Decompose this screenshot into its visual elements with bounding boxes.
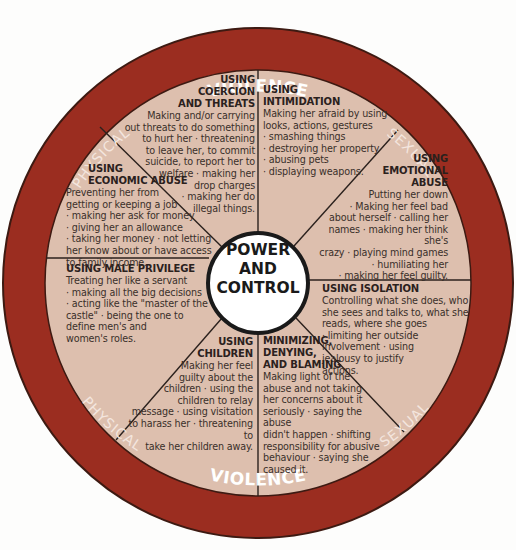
segment-title: USING ECONOMIC ABUSE	[66, 163, 216, 187]
segment-title: MINIMIZING, DENYING, AND BLAMING	[263, 335, 388, 371]
segment-body: Preventing her from getting or keeping a…	[66, 187, 216, 268]
segment-title: USING EMOTIONAL ABUSE	[318, 153, 448, 189]
segment-title: USING ISOLATION	[322, 283, 472, 295]
segment-body: Treating her like a servant · making all…	[66, 275, 216, 345]
segment-emotional-abuse: USING EMOTIONAL ABUSE Putting her down ·…	[318, 153, 448, 282]
segment-economic-abuse: USING ECONOMIC ABUSE Preventing her from…	[66, 163, 216, 268]
center-power-control-label: POWER AND CONTROL	[208, 241, 308, 298]
segment-children: USING CHILDREN Making her feel guilty ab…	[120, 336, 253, 453]
segment-body: Making light of the abuse and not taking…	[263, 371, 388, 475]
segment-body: Making her feel guilty about the childre…	[120, 360, 253, 453]
segment-title: USING INTIMIDATION	[263, 84, 403, 108]
segment-minimizing-denying-blaming: MINIMIZING, DENYING, AND BLAMING Making …	[263, 335, 388, 475]
segment-male-privilege: USING MALE PRIVILEGE Treating her like a…	[66, 263, 216, 345]
segment-body: Putting her down · Making her feel bad a…	[318, 189, 448, 282]
segment-title: USING COERCION AND THREATS	[120, 74, 255, 110]
